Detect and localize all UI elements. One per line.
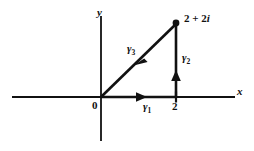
y-axis-label: y — [97, 7, 102, 18]
complex-plane-figure: y x 2 + 2i 0 2 γ1 γ2 γ3 — [0, 0, 254, 151]
vertex-point-marker — [173, 20, 180, 27]
gamma2-index: 2 — [187, 57, 191, 66]
gamma3-segment — [101, 24, 176, 97]
vertex-label-real-part: 2 + 2 — [184, 12, 207, 24]
gamma1-index: 1 — [148, 106, 152, 115]
gamma1-label: γ1 — [143, 101, 151, 112]
gamma3-index: 3 — [132, 48, 136, 57]
vertex-label-2-plus-2i: 2 + 2i — [184, 13, 210, 24]
gamma3-symbol: γ — [127, 42, 132, 54]
tick-label-two: 2 — [172, 101, 178, 112]
gamma1-symbol: γ — [143, 100, 148, 112]
gamma2-label: γ2 — [182, 52, 190, 63]
x-axis-label: x — [237, 86, 243, 97]
gamma2-symbol: γ — [182, 51, 187, 63]
gamma2-arrowhead-icon — [171, 70, 181, 81]
contour-diagram-canvas — [0, 0, 254, 151]
origin-label: 0 — [92, 100, 98, 111]
gamma3-label: γ3 — [127, 43, 135, 54]
vertex-label-imaginary-unit: i — [207, 12, 210, 24]
